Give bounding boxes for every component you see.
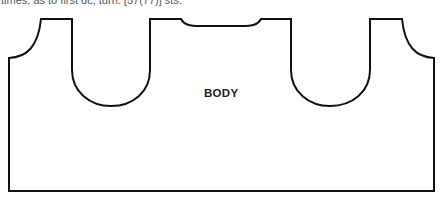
body-piece-label: BODY <box>204 87 238 99</box>
body-outline <box>9 19 434 191</box>
body-schematic-diagram <box>0 0 443 202</box>
